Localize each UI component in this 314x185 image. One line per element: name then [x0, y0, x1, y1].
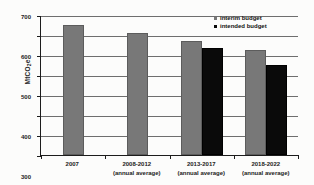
bar-interim-budget — [181, 41, 202, 155]
x-axis-tick — [41, 155, 42, 159]
chart-legend: interim budgetintended budget — [214, 15, 267, 31]
x-axis-label: 2018-2022(annual average) — [234, 160, 299, 178]
x-axis-label: 2007 — [40, 160, 105, 178]
x-axis-tick — [298, 155, 299, 159]
y-axis-tick-label: 500 — [21, 94, 31, 100]
x-axis-labels: 20072008-2012(annual average)2013-2017(a… — [40, 160, 298, 178]
legend-label: intended budget — [220, 23, 267, 29]
x-axis-tick — [234, 155, 235, 159]
bar-group — [170, 16, 234, 155]
bar-group — [41, 16, 105, 155]
chart-figure: MtCO2e 0100200300400500600700 20072008-2… — [0, 0, 314, 185]
y-axis-title-main: MtCO — [24, 66, 31, 84]
x-axis-label-note: (annual average) — [105, 169, 170, 178]
bar-intended-budget — [202, 48, 223, 155]
legend-swatch-icon — [214, 17, 217, 20]
legend-label: interim budget — [220, 15, 262, 21]
legend-item[interactable]: interim budget — [214, 15, 267, 21]
x-axis-label-period: 2007 — [66, 161, 79, 167]
x-axis-label-note: (annual average) — [234, 169, 299, 178]
plot-area: 0100200300400500600700 — [40, 16, 298, 156]
x-axis-label-period: 2008-2012 — [122, 161, 151, 167]
bar-groups — [41, 16, 298, 155]
bar-group — [105, 16, 169, 155]
x-axis-label-period: 2018-2022 — [251, 161, 280, 167]
y-axis-title-subscript: 2 — [26, 63, 32, 66]
y-axis-tick-label: 700 — [21, 14, 31, 20]
x-axis-label: 2008-2012(annual average) — [105, 160, 170, 178]
bar-group — [234, 16, 298, 155]
bar-interim-budget — [127, 33, 148, 155]
x-axis-label: 2013-2017(annual average) — [169, 160, 234, 178]
bar-interim-budget — [63, 25, 84, 155]
y-axis-tick-label: 600 — [21, 54, 31, 60]
legend-swatch-icon — [214, 25, 217, 28]
bar-interim-budget — [245, 50, 266, 155]
y-axis-tick-label: 400 — [21, 134, 31, 140]
x-axis-label-period: 2013-2017 — [187, 161, 216, 167]
x-axis-label-note: (annual average) — [169, 169, 234, 178]
y-axis-tick-label: 300 — [21, 174, 31, 180]
bar-intended-budget — [266, 65, 287, 155]
legend-item[interactable]: intended budget — [214, 23, 267, 29]
x-axis-tick — [105, 155, 106, 159]
x-axis-tick — [170, 155, 171, 159]
